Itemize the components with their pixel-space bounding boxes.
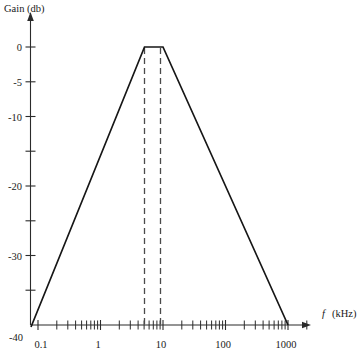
x-axis-title-unit: (kHz) <box>332 308 357 320</box>
y-tick-label-m40: -40 <box>9 332 23 343</box>
x-tick-label-1: 1 <box>95 339 100 350</box>
x-tick-label-0.1: 0.1 <box>34 339 47 350</box>
x-axis-group: 0.1 1 10 100 1000 <box>31 320 312 350</box>
x-tick-label-10: 10 <box>156 339 167 350</box>
y-axis-title: Gain (db) <box>4 3 45 15</box>
x-tick-label-1000: 1000 <box>276 339 297 350</box>
x-axis-title-symbol: f <box>322 308 327 319</box>
y-tick-label-0: 0 <box>17 42 22 53</box>
chart-canvas: 0 -5 -10 -20 -30 -40 <box>0 0 362 355</box>
y-tick-label-m10: -10 <box>8 112 22 123</box>
y-tick-label-m30: -30 <box>8 251 22 262</box>
x-axis-title: f (kHz) <box>322 303 357 320</box>
y-tick-label-m20: -20 <box>8 181 22 192</box>
y-axis-group: 0 -5 -10 -20 -30 -40 <box>8 12 36 343</box>
gain-response-chart: 0 -5 -10 -20 -30 -40 <box>0 0 362 355</box>
x-tick-label-100: 100 <box>215 339 231 350</box>
gain-response-trace <box>31 47 288 327</box>
y-tick-label-m5: -5 <box>13 77 22 88</box>
